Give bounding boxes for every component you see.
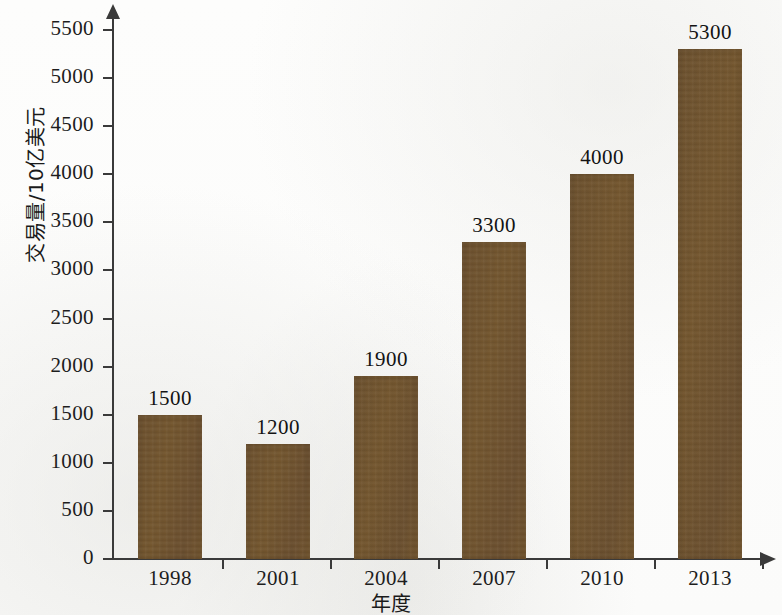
y-axis-tick (103, 221, 113, 223)
bar (138, 415, 202, 559)
x-axis-title: 年度 (0, 588, 782, 615)
y-axis-tick (103, 366, 113, 368)
y-axis-tick-label: 0 (8, 545, 94, 570)
bar (462, 242, 526, 559)
y-axis-arrowhead-icon (106, 4, 120, 19)
y-axis-tick (103, 269, 113, 271)
y-axis-tick (103, 125, 113, 127)
bar-value-label: 3300 (439, 213, 549, 238)
y-axis-tick-label: 500 (8, 497, 94, 522)
bar-value-label: 1500 (115, 386, 225, 411)
bar-value-label: 5300 (655, 20, 765, 45)
bar-value-label: 4000 (547, 145, 657, 170)
bar (354, 376, 418, 559)
bar-value-label: 1200 (223, 415, 333, 440)
bar-chart-figure: 5500500045004000350030002500200015001000… (0, 0, 782, 615)
y-axis-tick (103, 173, 113, 175)
y-axis-tick-label: 2000 (8, 353, 94, 378)
y-axis-tick-label: 1500 (8, 401, 94, 426)
y-axis-tick-label: 5500 (8, 16, 94, 41)
y-axis-tick (103, 510, 113, 512)
y-axis-tick (103, 77, 113, 79)
bar-value-label: 1900 (331, 347, 441, 372)
y-axis-tick (103, 318, 113, 320)
bar (678, 49, 742, 559)
y-axis-tick (103, 558, 113, 560)
y-axis-tick (103, 462, 113, 464)
y-axis-title: 交易量/10亿美元 (20, 55, 49, 315)
bar (246, 444, 310, 559)
y-axis-line (112, 14, 114, 560)
bar (570, 174, 634, 559)
y-axis-tick (103, 29, 113, 31)
y-axis-tick-label: 1000 (8, 449, 94, 474)
y-axis-tick (103, 414, 113, 416)
